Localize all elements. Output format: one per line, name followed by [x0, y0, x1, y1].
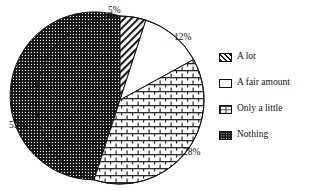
pie-label-a-lot: 5% [108, 6, 121, 16]
pie-chart-plot-area: 5% 12% 28% 55% [0, 0, 220, 191]
legend-swatch-dense-dot-dark-icon [219, 131, 232, 140]
pie-label-a-fair-amount: 12% [174, 33, 191, 43]
pie-label-nothing: 55% [9, 121, 26, 131]
legend-label-a-lot: A lot [237, 52, 256, 62]
legend-item-only-a-little: Only a little [219, 96, 314, 122]
legend-item-a-fair-amount: A fair amount [219, 70, 314, 96]
legend-swatch-solid-white-icon [219, 79, 232, 88]
pie-chart-svg [0, 0, 220, 191]
legend-label-nothing: Nothing [237, 130, 268, 140]
legend-item-nothing: Nothing [219, 122, 314, 148]
pie-chart-figure: 5% 12% 28% 55% A lot A fair amount Only … [0, 0, 314, 191]
legend-swatch-diagonal-hatch-icon [219, 53, 232, 62]
legend-label-only-a-little: Only a little [237, 104, 282, 114]
chart-legend: A lot A fair amount Only a little Nothin… [219, 44, 314, 148]
pie-label-only-a-little: 28% [183, 148, 200, 158]
legend-item-a-lot: A lot [219, 44, 314, 70]
legend-swatch-brick-icon [219, 105, 232, 114]
legend-label-a-fair-amount: A fair amount [237, 78, 290, 88]
